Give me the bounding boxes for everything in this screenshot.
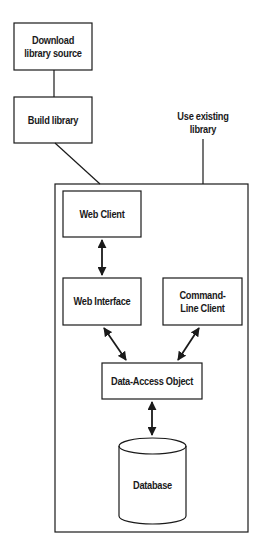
webinterface-dao-arrow — [104, 328, 126, 360]
web-interface-label: Web Interface — [68, 278, 137, 325]
dao-label: Data-Access Object — [108, 363, 196, 399]
use-existing-label: Use existing library — [172, 108, 234, 138]
diagram-canvas — [0, 0, 263, 547]
cli-label: Command-Line Client — [168, 278, 238, 325]
build-label: Build library — [19, 97, 88, 143]
web-client-label: Web Client — [68, 191, 137, 237]
cli-dao-arrow — [178, 328, 199, 360]
database-label: Database — [123, 470, 182, 500]
download-label: Download library source — [19, 23, 88, 70]
build-container-connector — [55, 143, 100, 184]
